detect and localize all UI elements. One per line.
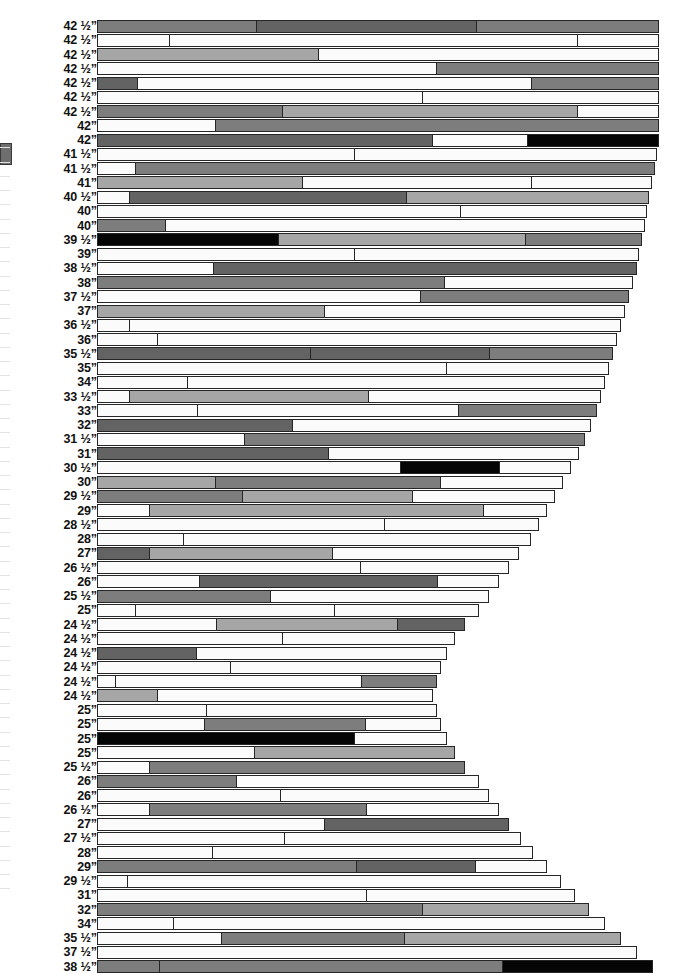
row-label: 38 ½” — [63, 262, 97, 275]
stacked-bar — [97, 134, 659, 147]
left-edge-tick — [0, 717, 10, 731]
row-label: 28” — [77, 846, 97, 859]
left-edge-tick — [0, 304, 10, 318]
left-edge-tick — [0, 204, 10, 218]
bar-segment — [532, 177, 651, 188]
stacked-bar — [97, 775, 479, 788]
bar-segment — [528, 135, 658, 146]
left-edge-tick — [0, 176, 10, 190]
bar-segment — [98, 847, 213, 858]
stacked-bar — [97, 946, 637, 959]
row-label: 41 ½” — [63, 148, 97, 161]
row-label: 24 ½” — [63, 618, 97, 631]
row-label: 37 ½” — [63, 291, 97, 304]
left-edge-tick — [0, 675, 10, 689]
bar-segment — [98, 448, 329, 459]
row-label: 42 ½” — [63, 48, 97, 61]
stacked-bar — [97, 561, 509, 574]
row-label: 27 ½” — [63, 832, 97, 845]
chart-row: 26” — [0, 774, 675, 788]
bar-segment — [231, 662, 440, 673]
chart-row: 33” — [0, 404, 675, 418]
bar-segment — [355, 733, 446, 744]
stacked-bar — [97, 105, 659, 118]
bar-segment — [369, 391, 600, 402]
row-label: 27” — [77, 818, 97, 831]
stacked-bar — [97, 362, 609, 375]
stacked-bar — [97, 248, 639, 261]
bar-segment — [271, 591, 488, 602]
row-label: 30” — [77, 476, 97, 489]
bar-segment — [526, 234, 641, 245]
left-edge-tick — [0, 347, 10, 361]
bar-segment — [98, 477, 216, 488]
bar-segment — [184, 534, 530, 545]
chart-row: 42 ½” — [0, 105, 675, 119]
stacked-bar — [97, 818, 509, 831]
stacked-bar — [97, 233, 642, 246]
bar-segment — [98, 690, 158, 701]
stacked-bar — [97, 518, 539, 531]
stacked-bar — [97, 390, 601, 403]
bar-segment — [98, 648, 197, 659]
bar-segment — [98, 149, 355, 160]
bar-segment — [98, 633, 283, 644]
bar-segment — [333, 548, 518, 559]
chart-row: 25” — [0, 703, 675, 717]
bar-segment — [355, 249, 638, 260]
row-label: 36 ½” — [63, 319, 97, 332]
bar-segment — [532, 78, 658, 89]
row-label: 37” — [77, 305, 97, 318]
chart-row: 36 ½” — [0, 318, 675, 332]
row-label: 40” — [77, 219, 97, 232]
bar-segment — [98, 391, 130, 402]
bar-segment — [319, 49, 658, 60]
bar-segment — [213, 847, 532, 858]
stacked-bar — [97, 761, 465, 774]
bar-segment — [98, 220, 166, 231]
chart-row: 29” — [0, 504, 675, 518]
row-label: 42 ½” — [63, 91, 97, 104]
row-label: 42 ½” — [63, 20, 97, 33]
bar-segment — [98, 591, 271, 602]
bar-segment — [98, 790, 281, 801]
chart-row: 26 ½” — [0, 803, 675, 817]
bar-segment — [503, 961, 652, 972]
row-label: 25” — [77, 604, 97, 617]
left-edge-tick — [0, 817, 10, 831]
left-edge-tick — [0, 646, 10, 660]
stacked-bar — [97, 718, 441, 731]
bar-segment — [237, 776, 478, 787]
bar-segment — [98, 491, 243, 502]
chart-row: 24 ½” — [0, 675, 675, 689]
row-label: 25” — [77, 747, 97, 760]
stacked-bar — [97, 533, 531, 546]
stacked-bar — [97, 77, 659, 90]
bar-segment — [325, 306, 624, 317]
left-edge-tick — [0, 261, 10, 275]
left-edge-tick — [0, 489, 10, 503]
bar-segment — [205, 719, 366, 730]
bar-segment — [293, 420, 590, 431]
row-label: 25” — [77, 718, 97, 731]
chart-row: 25” — [0, 746, 675, 760]
stacked-bar — [97, 305, 625, 318]
stacked-bar — [97, 917, 605, 930]
chart-row: 37 ½” — [0, 945, 675, 959]
bar-segment — [98, 206, 461, 217]
left-edge-tick — [0, 404, 10, 418]
row-label: 41 ½” — [63, 162, 97, 175]
bar-segment — [447, 363, 608, 374]
chart-row: 37 ½” — [0, 290, 675, 304]
left-edge-tick — [0, 660, 10, 674]
row-label: 35 ½” — [63, 348, 97, 361]
bar-segment — [98, 776, 237, 787]
left-edge-tick — [0, 504, 10, 518]
row-label: 32” — [77, 419, 97, 432]
stacked-bar — [97, 62, 659, 75]
left-edge-tick — [0, 190, 10, 204]
bar-segment — [98, 21, 257, 32]
bar-segment — [362, 676, 436, 687]
stacked-bar — [97, 647, 447, 660]
bar-segment — [98, 662, 231, 673]
